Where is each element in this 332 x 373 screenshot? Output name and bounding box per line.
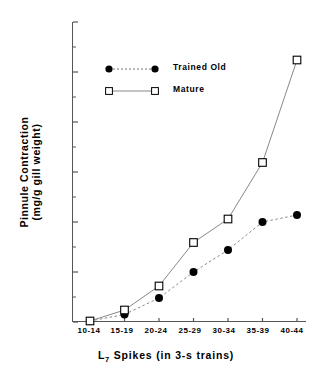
x-axis-ticks <box>90 318 297 322</box>
y-axis-title: Pinnule Contraction (mg/g gill weight) <box>18 22 42 322</box>
legend-key-filled-circle-dashed <box>103 58 161 80</box>
y-axis-title-line2: (mg/g gill weight) <box>30 22 42 322</box>
legend-key-open-square-solid <box>103 80 161 102</box>
legend-label: Mature <box>173 84 204 94</box>
x-axis-title-rest: Spikes (in 3-s trains) <box>110 349 234 361</box>
legend-label: Trained Old <box>173 62 226 72</box>
legend-item-mature: Mature <box>103 80 273 102</box>
legend-item-trained-old: Trained Old <box>103 58 273 80</box>
y-axis-major-ticks <box>73 22 78 322</box>
x-tick-label: 40-44 <box>270 326 314 335</box>
chart-figure: Pinnule Contraction (mg/g gill weight) 6… <box>0 0 332 373</box>
chart-legend: Trained Old Mature <box>103 58 273 102</box>
y-axis-title-line1: Pinnule Contraction <box>18 116 30 227</box>
x-axis-title: L7 Spikes (in 3-s trains) <box>0 349 332 364</box>
